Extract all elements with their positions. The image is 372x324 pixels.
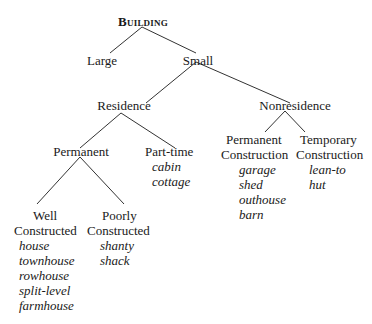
node-nonresidence: Nonresidence	[259, 98, 330, 113]
edge-nonres-tempconstr	[285, 111, 305, 132]
edge-residence-permanent	[80, 113, 121, 148]
node-temporary-construction: Temporary Construction lean-to hut	[296, 132, 363, 192]
node-residence: Residence	[97, 98, 150, 113]
example-item: house	[14, 238, 77, 253]
node-label: Part-time	[145, 144, 193, 159]
node-permanent: Permanent	[53, 144, 109, 159]
node-label: Permanent	[221, 132, 288, 147]
node-label: Large	[87, 53, 117, 68]
edge-nonres-permconstr	[265, 111, 285, 132]
node-label: Permanent	[53, 144, 109, 159]
node-poorly-constructed: Poorly Constructed shanty shack	[87, 208, 150, 268]
example-item: rowhouse	[14, 268, 77, 283]
node-label: Building	[118, 14, 168, 29]
example-item: split-level	[14, 283, 77, 298]
node-label: Constructed	[14, 223, 77, 238]
edge-residence-parttime	[121, 113, 175, 148]
node-label: Small	[183, 53, 213, 68]
example-item: lean-to	[296, 162, 363, 177]
example-item: garage	[221, 162, 288, 177]
node-label: Construction	[221, 147, 288, 162]
node-part-time: Part-time cabin cottage	[145, 144, 193, 189]
example-item: townhouse	[14, 253, 77, 268]
example-item: shanty	[87, 238, 150, 253]
node-permanent-construction: Permanent Construction garage shed outho…	[221, 132, 288, 222]
example-item: shed	[221, 177, 288, 192]
edge-building-small	[142, 27, 196, 53]
node-label: Nonresidence	[259, 98, 330, 113]
edge-building-large	[110, 27, 142, 53]
node-label: Constructed	[87, 223, 150, 238]
edge-permanent-poorly	[80, 157, 124, 204]
example-item: barn	[221, 207, 288, 222]
node-label: Construction	[296, 147, 363, 162]
example-item: outhouse	[221, 192, 288, 207]
node-small: Small	[183, 53, 213, 68]
example-item: farmhouse	[14, 298, 77, 313]
node-building: Building	[118, 14, 168, 29]
node-large: Large	[87, 53, 117, 68]
edge-small-residence	[146, 62, 196, 103]
example-item: hut	[296, 177, 363, 192]
example-item: shack	[87, 253, 150, 268]
example-item: cabin	[145, 159, 193, 174]
node-label: Temporary	[296, 132, 363, 147]
node-well-constructed: Well Constructed house townhouse rowhous…	[14, 208, 77, 313]
example-item: cottage	[145, 174, 193, 189]
edge-permanent-well	[37, 157, 80, 204]
node-label: Residence	[97, 98, 150, 113]
edge-small-nonresidence	[196, 62, 290, 103]
node-label: Well	[14, 208, 77, 223]
node-label: Poorly	[87, 208, 150, 223]
